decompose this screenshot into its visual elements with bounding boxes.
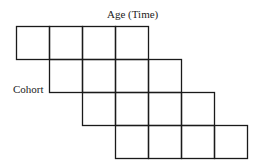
grid-cell <box>83 27 116 60</box>
grid-cell <box>116 60 149 93</box>
grid-row-2 <box>83 93 215 126</box>
grid-cell <box>116 27 149 60</box>
grid-cell <box>83 60 116 93</box>
grid-cell <box>182 126 215 159</box>
grid-cell <box>50 27 83 60</box>
grid-cell <box>50 60 83 93</box>
grid-cell <box>17 27 50 60</box>
grid-row-1 <box>50 60 182 93</box>
grid-cell <box>182 93 215 126</box>
grid-row-0 <box>17 27 149 60</box>
grid-cell <box>116 126 149 159</box>
grid-cell <box>83 93 116 126</box>
grid-row-3 <box>116 126 248 159</box>
grid-cell <box>116 93 149 126</box>
grid-cell <box>149 126 182 159</box>
grid-cell <box>149 93 182 126</box>
grid-cell <box>149 60 182 93</box>
grid-cell <box>215 126 248 159</box>
staggered-cohort-grid <box>0 0 262 167</box>
